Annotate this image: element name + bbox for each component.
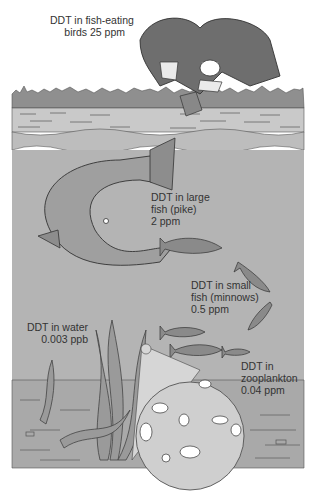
label-water: DDT in water 0.003 ppb	[20, 321, 88, 345]
label-large-fish: DDT in large fish (pike) 2 ppm	[151, 191, 210, 227]
shoreline	[12, 86, 304, 108]
label-small-fish: DDT in small fish (minnows) 0.5 ppm	[191, 279, 259, 315]
food-chain-illustration	[0, 0, 317, 496]
label-birds: DDT in fish-eating birds 25 ppm	[50, 14, 125, 38]
surface-water	[12, 108, 304, 132]
zooplankton-magnifier	[136, 382, 244, 490]
label-zooplankton: DDT in zooplankton 0.04 ppm	[241, 360, 298, 396]
